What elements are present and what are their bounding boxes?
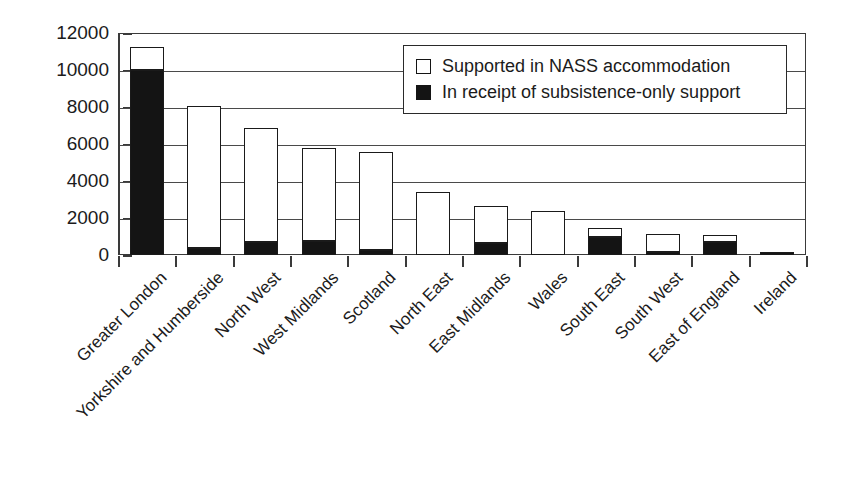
y-tick-label: 0 [29,245,109,264]
x-tick-mark [118,256,120,267]
bar-segment-subsistence-only[interactable] [130,70,164,255]
x-axis-label-text: Ireland [751,268,801,318]
x-axis-labels: Greater LondonYorkshire and HumbersideNo… [118,268,844,398]
y-tick-label: 10000 [29,60,109,79]
legend-swatch-hollow-icon [416,59,431,74]
legend: Supported in NASS accommodation In recei… [403,45,787,114]
y-tick-label: 6000 [29,134,109,153]
legend-swatch-filled-icon [416,85,431,100]
y-tick-label: 12000 [29,23,109,42]
bar-segment-nass-accommodation[interactable] [130,47,164,70]
y-tick-label: 4000 [29,171,109,190]
x-axis-label-text: Wales [525,268,571,314]
bar-chart: 12000 10000 8000 6000 4000 2000 0 Greate… [0,0,844,497]
y-tick-label: 8000 [29,97,109,116]
legend-item: In receipt of subsistence-only support [416,79,774,105]
y-axis: 12000 10000 8000 6000 4000 2000 0 [14,33,109,255]
legend-label: Supported in NASS accommodation [442,56,730,76]
legend-item: Supported in NASS accommodation [416,53,774,79]
legend-label: In receipt of subsistence-only support [442,82,740,102]
bar-segment-nass-accommodation[interactable] [588,228,622,237]
y-tick-label: 2000 [29,208,109,227]
